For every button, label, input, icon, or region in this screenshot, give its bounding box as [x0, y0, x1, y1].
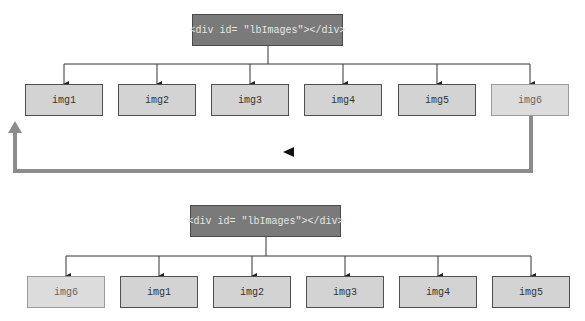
top-child-2: img2	[118, 84, 196, 116]
bottom-parent-div: <div id= "lbImages"></div>	[190, 205, 341, 237]
top-child-6-moved: img6	[491, 84, 569, 116]
top-tree-connectors	[64, 46, 530, 84]
bottom-child-1-moved: img6	[27, 276, 105, 308]
top-child-3: img3	[211, 84, 289, 116]
move-arrow	[8, 116, 531, 171]
top-child-5: img5	[398, 84, 476, 116]
bottom-tree-connectors	[66, 237, 531, 276]
top-child-1: img1	[25, 84, 103, 116]
up-arrow-icon	[8, 121, 22, 133]
bottom-child-5: img4	[399, 276, 477, 308]
connector-lines	[0, 0, 585, 321]
bottom-child-2: img1	[120, 276, 198, 308]
bottom-child-3: img2	[213, 276, 291, 308]
left-triangle-icon	[283, 147, 294, 157]
bottom-child-4: img3	[306, 276, 384, 308]
top-child-4: img4	[304, 84, 382, 116]
top-parent-div: <div id= "lbImages"></div>	[192, 14, 343, 46]
bottom-child-6: img5	[492, 276, 570, 308]
